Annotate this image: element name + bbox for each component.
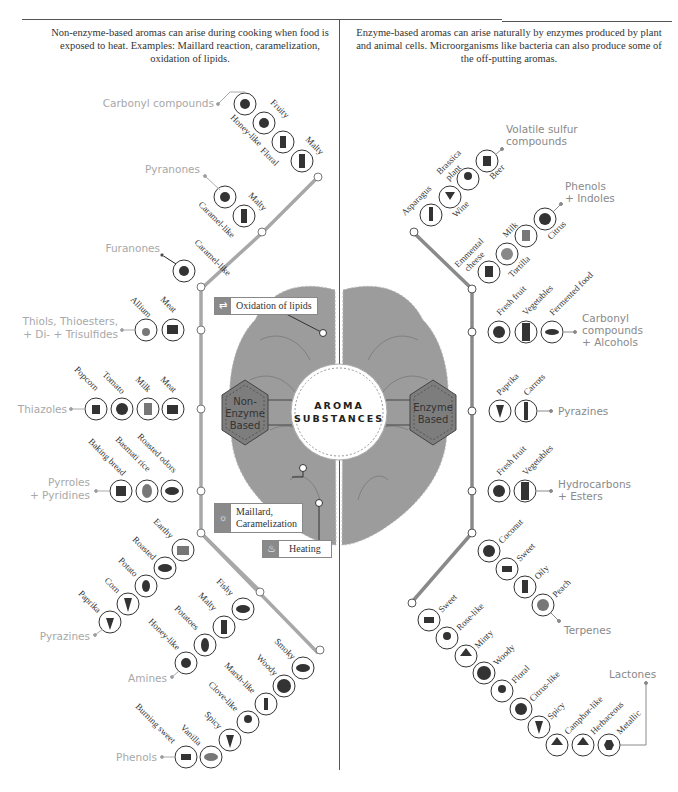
src-honey-like-2: Honey-like <box>147 616 183 652</box>
callout-maillard-label: Maillard,Caramelization <box>231 504 302 532</box>
src-sweet-2: Sweet <box>436 591 459 614</box>
center-circle <box>291 364 387 460</box>
src-meat: Meat <box>159 294 180 315</box>
right-cat-phenols-1: Phenols <box>565 180 606 192</box>
right-cat-pyrazines: Pyrazines <box>558 405 608 417</box>
callout-heating-label: Heating <box>279 541 331 557</box>
left-cat-phenols: Phenols <box>116 751 157 763</box>
left-cat-pyrazines: Pyrazines <box>40 630 90 642</box>
callout-maillard: ☼ Maillard,Caramelization <box>214 503 303 533</box>
left-cat-pyrroles-1: Pyrroles <box>48 476 90 488</box>
right-cat-hydrocarbons-2: + Esters <box>558 490 603 502</box>
src-woody-2: Woody <box>491 642 517 668</box>
enzyme-label-2: Based <box>418 414 449 425</box>
src-citrus-like: Citrus-like <box>527 669 561 703</box>
src-vegetables-2: Vegetables <box>520 442 555 477</box>
src-minty: Minty <box>472 627 495 650</box>
src-smoky: Smoky <box>273 636 298 661</box>
src-fishy: Fishy <box>215 576 237 598</box>
center-title-line1: AROMA <box>314 400 364 411</box>
right-cat-carbonyl-3: + Alcohols <box>582 336 638 348</box>
src-oily: Oily <box>532 563 551 582</box>
src-potato: Potato <box>117 555 141 579</box>
non-enzyme-label-1: Non- <box>233 396 257 407</box>
src-peach: Peach <box>550 577 573 600</box>
right-cat-lactones: Lactones <box>609 668 656 680</box>
left-cat-pyrroles-2: + Pyridines <box>30 489 90 501</box>
src-potatoes: Potatoes <box>173 603 202 632</box>
right-cat-carbonyl-2: compounds <box>582 324 643 336</box>
src-meat-2: Meat <box>159 374 180 395</box>
src-carrots: Carrots <box>521 371 547 397</box>
flame-icon: ♨ <box>263 541 279 557</box>
left-cat-pyranones: Pyranones <box>145 163 200 175</box>
right-cat-carbonyl-1: Carbonyl <box>582 312 629 324</box>
sun-icon: ☼ <box>215 504 231 532</box>
left-cat-amines: Amines <box>128 672 167 684</box>
src-rose-like: Rose-like <box>454 601 485 632</box>
right-cat-sulfur-2: compounds <box>506 135 567 147</box>
src-roasted: Roasted <box>131 534 159 562</box>
left-cat-thiols-2: + Di- + Trisulfides <box>23 328 118 340</box>
src-spicy: Spicy <box>203 709 225 731</box>
left-cat-furanones: Furanones <box>105 242 160 254</box>
src-coconut: Coconut <box>496 516 525 545</box>
src-earthy: Earthy <box>152 516 176 540</box>
src-popcorn: Popcorn <box>73 364 102 393</box>
left-cat-thiols-1: Thiols, Thioesters, <box>21 315 118 327</box>
aroma-diagram: AROMA SUBSTANCES Non- Enzyme Based Enzym… <box>0 0 678 792</box>
src-paprika: Paprika <box>77 588 104 615</box>
right-cat-hydrocarbons-1: Hydrocarbons <box>558 478 631 490</box>
src-malty-3: Malty <box>197 590 220 613</box>
src-fermented-food: Fermented food <box>547 270 595 318</box>
src-spicy-2: Spicy <box>545 699 567 721</box>
center-title-line2: SUBSTANCES <box>294 413 384 424</box>
src-marsh-like: Marsh-like <box>223 660 258 695</box>
right-cat-phenols-2: + Indoles <box>565 192 615 204</box>
src-vanilla: Vanilla <box>179 722 204 747</box>
left-cat-thiazoles: Thiazoles <box>17 403 67 415</box>
src-allium: Allium <box>129 294 154 319</box>
src-milk: Milk <box>134 374 154 394</box>
src-clove-like: Clove-like <box>207 679 241 713</box>
enzyme-label-1: Enzyme <box>413 402 453 413</box>
right-cat-terpenes: Terpenes <box>563 624 611 636</box>
callout-oxidation-label: Oxidation of lipids <box>231 298 317 314</box>
callout-oxidation: ⇄ Oxidation of lipids <box>214 297 318 315</box>
src-sweet: Sweet <box>514 540 537 563</box>
src-paprika-2: Paprika <box>494 371 521 398</box>
left-cat-carbonyl: Carbonyl compounds <box>103 97 214 109</box>
src-woody: Woody <box>255 652 281 678</box>
callout-heating: ♨ Heating <box>262 540 332 558</box>
src-tomato: Tomato <box>101 369 128 396</box>
non-enzyme-label-3: Based <box>230 420 261 431</box>
src-corn: Corn <box>103 575 123 595</box>
right-cat-sulfur-1: Volatile sulfur <box>506 123 578 135</box>
src-burning-sweet: Burning sweet <box>134 701 178 745</box>
non-enzyme-label-2: Enzyme <box>225 408 265 419</box>
src-floral-2: Floral <box>509 663 532 686</box>
src-caramel-like-2: Caramel-like <box>193 237 233 277</box>
oxidation-icon: ⇄ <box>215 298 231 314</box>
